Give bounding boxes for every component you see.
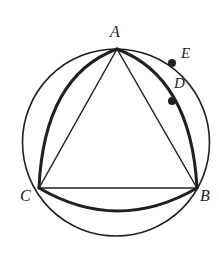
point-label-e: E [181,46,190,61]
arc-c-to-b [39,188,197,211]
point-label-d: D [174,76,185,91]
vertex-label-c: C [20,188,31,204]
point-d-marker [168,97,176,105]
vertex-label-b: B [200,188,210,204]
geometry-figure: A B C D E [0,0,219,258]
vertex-label-a: A [110,24,120,40]
point-e-marker [168,59,176,67]
